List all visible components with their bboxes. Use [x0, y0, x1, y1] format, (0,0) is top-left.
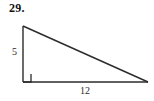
hypotenuse-line	[23, 26, 148, 82]
right-angle-marker-icon	[23, 74, 31, 82]
triangle-outline	[23, 26, 148, 82]
horizontal-leg-label: 12	[80, 85, 90, 96]
geometry-figure: 29. 5 12	[0, 0, 154, 101]
right-triangle-diagram	[0, 0, 154, 101]
vertical-leg-label: 5	[12, 46, 17, 57]
